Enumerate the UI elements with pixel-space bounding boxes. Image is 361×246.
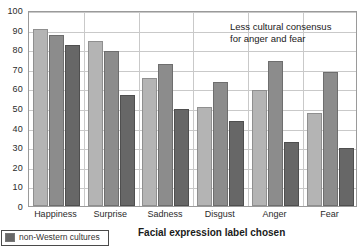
bar-happiness-series2[interactable] <box>65 45 80 206</box>
y-tick-label: 60 <box>0 84 23 94</box>
bar-anger-series0[interactable] <box>252 90 267 206</box>
bar-anger-series2[interactable] <box>284 142 299 206</box>
bar-group-happiness <box>29 12 84 206</box>
y-tick-label: 30 <box>0 143 23 153</box>
bar-surprise-series0[interactable] <box>88 41 103 206</box>
annotation-line-2: for anger and fear <box>230 33 331 45</box>
y-tick-label: 80 <box>0 45 23 55</box>
x-tick-label-disgust: Disgust <box>205 209 235 219</box>
x-axis: Happiness Surprise Sadness Disgust Anger… <box>28 209 357 223</box>
y-tick-label: 0 <box>0 202 23 212</box>
legend: non-Western cultures <box>1 230 109 246</box>
x-axis-title: Facial expression label chosen <box>138 227 285 238</box>
y-tick-label: 10 <box>0 182 23 192</box>
x-tick-label-surprise: Surprise <box>93 209 127 219</box>
bar-disgust-series2[interactable] <box>229 121 244 206</box>
legend-item-label: non-Western cultures <box>19 232 100 242</box>
chart-annotation: Less cultural consensus for anger and fe… <box>230 21 331 44</box>
bar-happiness-series1[interactable] <box>49 35 64 206</box>
x-tick-label-sadness: Sadness <box>147 209 182 219</box>
x-tick-label-happiness: Happiness <box>34 209 77 219</box>
bar-group-sadness <box>139 12 194 206</box>
bar-sadness-series1[interactable] <box>158 64 173 206</box>
bar-disgust-series0[interactable] <box>197 107 212 206</box>
y-tick-label: 20 <box>0 163 23 173</box>
legend-item-non-western-cultures[interactable]: non-Western cultures <box>2 231 108 242</box>
y-tick-label: 90 <box>0 26 23 36</box>
bar-surprise-series1[interactable] <box>104 51 119 206</box>
y-tick-label: 40 <box>0 124 23 134</box>
y-tick-label: 70 <box>0 65 23 75</box>
bar-sadness-series2[interactable] <box>174 109 189 206</box>
bar-surprise-series2[interactable] <box>120 95 135 206</box>
x-tick-label-fear: Fear <box>320 209 339 219</box>
bar-group-surprise <box>84 12 139 206</box>
bar-sadness-series0[interactable] <box>142 78 157 206</box>
bar-disgust-series1[interactable] <box>213 82 228 206</box>
annotation-line-1: Less cultural consensus <box>230 21 331 33</box>
y-axis: 100 90 80 70 60 50 40 30 20 10 0 <box>0 0 25 242</box>
y-tick-label: 100 <box>0 6 23 16</box>
bar-fear-series2[interactable] <box>339 148 354 206</box>
bar-fear-series1[interactable] <box>323 72 338 206</box>
bar-happiness-series0[interactable] <box>33 29 48 206</box>
legend-swatch-icon <box>5 233 15 242</box>
bar-fear-series0[interactable] <box>307 113 322 206</box>
bar-anger-series1[interactable] <box>268 61 283 207</box>
x-tick-label-anger: Anger <box>263 209 287 219</box>
y-tick-label: 50 <box>0 104 23 114</box>
